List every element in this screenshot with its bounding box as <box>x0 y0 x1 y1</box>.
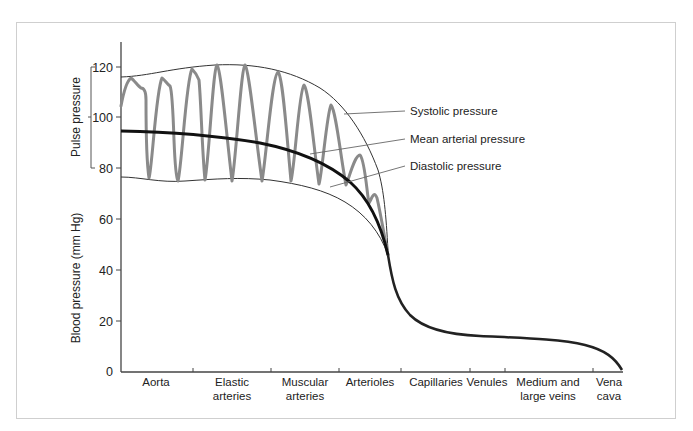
category-capillaries: Capillaries <box>409 376 463 388</box>
category-muscular-arteries-2: arteries <box>286 390 325 402</box>
category-vena-cava-1: Vena <box>596 376 623 388</box>
diastolic-pressure-label: Diastolic pressure <box>410 160 501 172</box>
y-axis-title: Blood pressure (mm Hg) <box>69 213 83 344</box>
category-vena-cava-2: cava <box>597 390 622 402</box>
y-tick-60: 60 <box>99 213 113 227</box>
y-tick-20: 20 <box>99 315 113 329</box>
y-tick-80: 80 <box>99 162 113 176</box>
y-tick-120: 120 <box>92 61 113 75</box>
systolic-pressure-label: Systolic pressure <box>410 105 498 117</box>
systolic-envelope-line <box>121 65 388 250</box>
x-category-labels: Aorta Elastic arteries Muscular arteries… <box>142 376 622 402</box>
y-tick-labels: 120 100 80 60 40 20 0 <box>92 61 113 379</box>
blood-pressure-chart: 120 100 80 60 40 20 0 Pulse pressure Blo… <box>0 0 693 431</box>
category-veins-1: Medium and <box>516 376 579 388</box>
category-aorta: Aorta <box>142 376 170 388</box>
category-venules: Venules <box>467 376 508 388</box>
pulse-pressure-label: Pulse pressure <box>69 77 83 157</box>
y-tick-40: 40 <box>99 264 113 278</box>
category-muscular-arteries-1: Muscular <box>282 376 329 388</box>
category-elastic-arteries-2: arteries <box>213 390 252 402</box>
category-elastic-arteries-1: Elastic <box>215 376 249 388</box>
venous-pressure-line <box>388 255 622 370</box>
diastolic-envelope-line <box>121 177 388 255</box>
y-tick-100: 100 <box>92 111 113 125</box>
category-veins-2: large veins <box>520 390 576 402</box>
y-tick-0: 0 <box>106 365 113 379</box>
mean-arterial-pressure-label: Mean arterial pressure <box>410 133 525 145</box>
mean-arterial-pressure-line <box>121 131 388 255</box>
pressure-waveform <box>121 65 388 255</box>
systolic-leader-line <box>344 111 405 114</box>
category-arterioles: Arterioles <box>346 376 395 388</box>
